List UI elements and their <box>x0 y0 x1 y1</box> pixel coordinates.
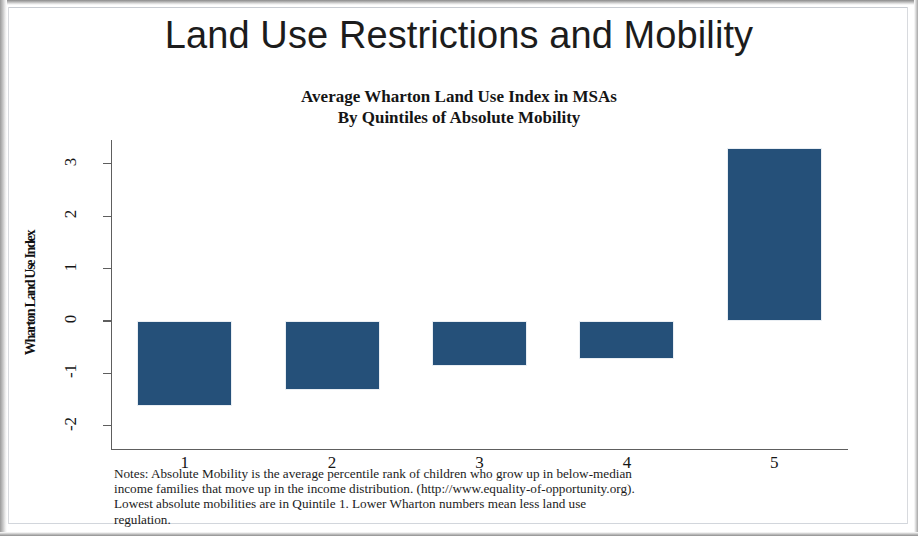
x-axis-line <box>111 449 848 450</box>
bar-chart: Wharton Land Use Index 3210-1-2 12345 <box>0 0 918 536</box>
footnote-line-4: regulation. <box>114 512 820 527</box>
bar <box>727 148 822 321</box>
y-axis-line <box>111 140 112 450</box>
y-axis-title: Wharton Land Use Index <box>23 228 39 358</box>
bar <box>137 321 232 406</box>
y-tick-label: -2 <box>48 414 94 434</box>
scanned-page: Land Use Restrictions and Mobility Avera… <box>0 0 918 536</box>
y-tick-mark <box>103 216 111 217</box>
y-tick-label: 2 <box>48 204 94 224</box>
bar <box>579 321 674 359</box>
y-tick-mark <box>103 268 111 269</box>
y-tick-label-text: -1 <box>61 364 81 378</box>
footnote-line-2: income families that move up in the inco… <box>114 481 820 496</box>
y-tick-mark <box>103 425 111 426</box>
y-tick-label-text: 0 <box>61 315 81 324</box>
footnote: Notes: Absolute Mobility is the average … <box>114 466 820 527</box>
y-tick-mark <box>103 163 111 164</box>
footnote-line-1: Notes: Absolute Mobility is the average … <box>114 466 820 481</box>
y-tick-label-text: 3 <box>61 158 81 167</box>
bar <box>285 321 380 390</box>
bar <box>432 321 527 366</box>
y-tick-label: 3 <box>48 152 94 172</box>
y-tick-label: 1 <box>48 257 94 277</box>
y-tick-mark <box>103 320 111 321</box>
y-tick-label: -1 <box>48 361 94 381</box>
y-tick-label-text: 2 <box>61 210 81 219</box>
footnote-line-3: Lowest absolute mobilities are in Quinti… <box>114 496 820 511</box>
y-tick-label-text: -2 <box>61 417 81 431</box>
y-tick-mark <box>103 373 111 374</box>
y-tick-label-text: 1 <box>61 262 81 271</box>
y-tick-label: 0 <box>48 309 94 329</box>
